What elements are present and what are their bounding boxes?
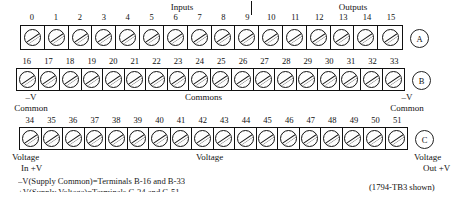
terminal-50[interactable] <box>364 128 386 149</box>
terminal-8[interactable] <box>212 26 236 49</box>
terminal-number-28: 28 <box>274 57 298 66</box>
terminal-number-48: 48 <box>320 116 344 125</box>
terminal-number-23: 23 <box>166 57 190 66</box>
screw-icon <box>341 71 358 88</box>
terminal-35[interactable] <box>42 128 64 149</box>
terminal-13[interactable] <box>331 26 355 49</box>
terminal-37[interactable] <box>85 128 107 149</box>
row-c-terminal-strip[interactable] <box>19 127 408 150</box>
terminal-21[interactable] <box>125 69 147 90</box>
footnotes: –V(Supply Common)=Terminals B-16 and B-3… <box>18 176 185 192</box>
terminal-17[interactable] <box>39 69 61 90</box>
terminal-51[interactable] <box>386 128 408 149</box>
screw-icon <box>366 130 383 147</box>
terminal-29[interactable] <box>297 69 319 90</box>
terminal-28[interactable] <box>275 69 297 90</box>
terminal-45[interactable] <box>257 128 279 149</box>
screw-icon <box>148 71 165 88</box>
screw-icon <box>363 71 380 88</box>
terminal-number-19: 19 <box>80 57 104 66</box>
screw-icon <box>382 29 399 46</box>
row-b-terminal-strip[interactable] <box>16 68 405 91</box>
terminal-number-43: 43 <box>212 116 236 125</box>
screw-icon <box>298 71 315 88</box>
screw-icon <box>237 130 254 147</box>
terminal-46[interactable] <box>278 128 300 149</box>
terminal-14[interactable] <box>354 26 378 49</box>
terminal-15[interactable] <box>378 26 402 49</box>
terminal-number-35: 35 <box>39 116 63 125</box>
terminal-34[interactable] <box>20 128 42 149</box>
screw-icon <box>22 130 39 147</box>
terminal-3[interactable] <box>92 26 116 49</box>
terminal-22[interactable] <box>146 69 168 90</box>
terminal-42[interactable] <box>192 128 214 149</box>
footnote-2: +V(Supply Voltage)=Terminals C-34 and C-… <box>18 187 185 192</box>
terminal-number-42: 42 <box>191 116 215 125</box>
terminal-23[interactable] <box>168 69 190 90</box>
outputs-label: Outputs <box>323 2 383 12</box>
terminal-30[interactable] <box>318 69 340 90</box>
screw-icon <box>119 29 136 46</box>
row-b-label-right-line2: Common <box>378 103 436 114</box>
terminal-48[interactable] <box>321 128 343 149</box>
screw-icon <box>280 130 297 147</box>
terminal-24[interactable] <box>189 69 211 90</box>
terminal-2[interactable] <box>69 26 93 49</box>
row-b-label-left: –V Common <box>2 92 60 113</box>
terminal-number-33: 33 <box>382 57 406 66</box>
row-c-label-right-line1: Voltage <box>414 152 450 163</box>
terminal-11[interactable] <box>283 26 307 49</box>
terminal-44[interactable] <box>235 128 257 149</box>
screw-icon <box>72 29 89 46</box>
terminal-4[interactable] <box>116 26 140 49</box>
screw-icon <box>357 29 374 46</box>
terminal-5[interactable] <box>140 26 164 49</box>
terminal-20[interactable] <box>103 69 125 90</box>
terminal-number-16: 16 <box>15 57 39 66</box>
terminal-10[interactable] <box>259 26 283 49</box>
terminal-base-diagram: Inputs Outputs 0123456789101112131415 A … <box>0 0 469 198</box>
terminal-31[interactable] <box>340 69 362 90</box>
terminal-7[interactable] <box>188 26 212 49</box>
screw-icon <box>262 29 279 46</box>
screw-icon <box>258 130 275 147</box>
terminal-41[interactable] <box>171 128 193 149</box>
screw-icon <box>95 29 112 46</box>
screw-icon <box>129 130 146 147</box>
terminal-number-34: 34 <box>18 116 42 125</box>
terminal-49[interactable] <box>343 128 365 149</box>
terminal-19[interactable] <box>82 69 104 90</box>
terminal-25[interactable] <box>211 69 233 90</box>
screw-icon <box>24 29 41 46</box>
terminal-43[interactable] <box>214 128 236 149</box>
terminal-number-7: 7 <box>188 13 212 22</box>
terminal-27[interactable] <box>254 69 276 90</box>
screw-icon <box>191 29 208 46</box>
terminal-number-4: 4 <box>116 13 140 22</box>
terminal-33[interactable] <box>383 69 405 90</box>
terminal-38[interactable] <box>106 128 128 149</box>
terminal-40[interactable] <box>149 128 171 149</box>
terminal-16[interactable] <box>17 69 39 90</box>
terminal-32[interactable] <box>361 69 383 90</box>
terminal-number-20: 20 <box>101 57 125 66</box>
terminal-26[interactable] <box>232 69 254 90</box>
terminal-18[interactable] <box>60 69 82 90</box>
terminal-1[interactable] <box>45 26 69 49</box>
row-c-label-center-line1: Voltage <box>196 152 223 163</box>
terminal-9[interactable] <box>235 26 259 49</box>
terminal-36[interactable] <box>63 128 85 149</box>
terminal-6[interactable] <box>164 26 188 49</box>
screw-icon <box>43 130 60 147</box>
terminal-number-44: 44 <box>234 116 258 125</box>
row-a-terminal-strip[interactable] <box>20 25 403 50</box>
screw-icon <box>191 71 208 88</box>
terminal-47[interactable] <box>300 128 322 149</box>
screw-icon <box>40 71 57 88</box>
screw-icon <box>48 29 65 46</box>
terminal-0[interactable] <box>21 26 45 49</box>
terminal-39[interactable] <box>128 128 150 149</box>
terminal-number-1: 1 <box>44 13 68 22</box>
terminal-12[interactable] <box>307 26 331 49</box>
